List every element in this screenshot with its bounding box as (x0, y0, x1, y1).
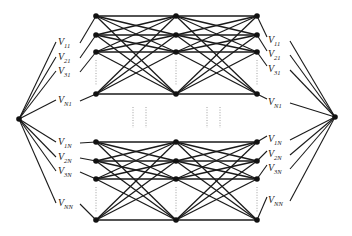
left-node-label: V2N (58, 151, 72, 164)
network-node (254, 139, 260, 145)
left-node-label: V3N (58, 165, 72, 178)
hub-link (19, 119, 56, 171)
network-node (93, 32, 99, 38)
hub-link (19, 71, 56, 119)
ellipsis-dots (96, 60, 257, 212)
network-node (93, 158, 99, 164)
network-node (93, 217, 99, 223)
left-hub (16, 116, 22, 122)
network-node (173, 32, 179, 38)
network-node (254, 32, 260, 38)
right-node-label: V21 (268, 48, 281, 61)
left-node-label: VN1 (58, 94, 72, 107)
left-node-label: V31 (58, 65, 71, 78)
left-node-label: V1N (58, 136, 72, 149)
network-node (254, 49, 260, 55)
right-node-label: V2N (268, 148, 282, 161)
network-node (93, 91, 99, 97)
hub-link (19, 119, 56, 203)
right-node-label: V31 (268, 63, 281, 76)
right-node-label: VN1 (268, 96, 282, 109)
label-link (80, 204, 96, 220)
network-node (254, 176, 260, 182)
network-diagram: V11V21V31VN1V1NV2NV3NVNNV11V21V31VN1V1NV… (0, 0, 352, 236)
network-node (254, 91, 260, 97)
right-node-label: V1N (268, 133, 282, 146)
label-link (257, 35, 267, 51)
right-node-label: V3N (268, 162, 282, 175)
edges (96, 16, 257, 220)
network-node (173, 158, 179, 164)
hub-link (290, 117, 335, 201)
network-node (93, 176, 99, 182)
network-node (173, 13, 179, 19)
network-node (173, 91, 179, 97)
left-node-label: V21 (58, 51, 71, 64)
right-node-label: V11 (268, 34, 280, 47)
right-node-label: VNN (268, 194, 283, 207)
left-node-label: VNN (58, 197, 73, 210)
hub-link (290, 117, 335, 169)
network-node (173, 176, 179, 182)
network-node (173, 139, 179, 145)
right-hub (332, 114, 338, 120)
network-node (93, 139, 99, 145)
network-node (173, 217, 179, 223)
left-node-label: V11 (58, 36, 70, 49)
network-node (254, 217, 260, 223)
network-node (93, 49, 99, 55)
network-node (93, 13, 99, 19)
hub-link (290, 55, 335, 117)
network-node (254, 158, 260, 164)
network-node (254, 13, 260, 19)
label-link (257, 197, 267, 220)
network-node (173, 49, 179, 55)
hub-link (19, 42, 56, 119)
